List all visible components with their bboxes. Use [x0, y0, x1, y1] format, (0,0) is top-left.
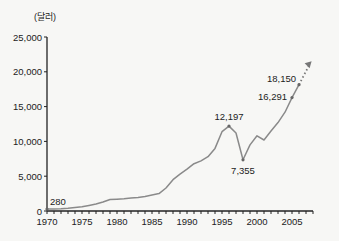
x-tick-label: 1980	[106, 216, 127, 227]
y-tick-label: 25,000	[13, 32, 42, 43]
data-label: 18,150	[267, 73, 296, 84]
y-tick-label: 5,000	[18, 171, 42, 182]
x-tick-label: 2005	[281, 216, 302, 227]
y-tick-label: 15,000	[13, 101, 42, 112]
x-axis: 19701975198019851990199520002005	[36, 211, 313, 227]
data-point-marker	[241, 158, 244, 161]
x-tick-label: 1985	[141, 216, 162, 227]
data-point-marker	[227, 125, 230, 128]
data-point-marker	[297, 83, 300, 86]
line-chart: (달러) 05,00010,00015,00020,00025,000 1970…	[0, 0, 339, 241]
trend-arrow-line	[299, 64, 310, 84]
data-label: 12,197	[214, 111, 243, 122]
data-point-marker	[45, 207, 48, 210]
y-tick-label: 10,000	[13, 136, 42, 147]
x-tick-label: 1995	[211, 216, 232, 227]
x-tick-label: 1970	[36, 216, 57, 227]
trend-arrow-head-icon	[305, 61, 312, 68]
data-label: 16,291	[258, 91, 287, 102]
data-point-marker	[290, 96, 293, 99]
x-tick-label: 1990	[176, 216, 197, 227]
y-tick-label: 20,000	[13, 66, 42, 77]
y-axis: 05,00010,00015,00020,00025,000	[13, 32, 47, 217]
y-tick-label: 0	[37, 206, 42, 217]
data-annotations: 28012,1977,35516,29118,150	[45, 73, 300, 211]
series-line	[47, 85, 299, 209]
data-label: 7,355	[231, 165, 255, 176]
data-label: 280	[50, 196, 66, 207]
y-axis-unit-label: (달러)	[34, 11, 56, 22]
x-tick-label: 1975	[71, 216, 92, 227]
x-tick-label: 2000	[246, 216, 267, 227]
